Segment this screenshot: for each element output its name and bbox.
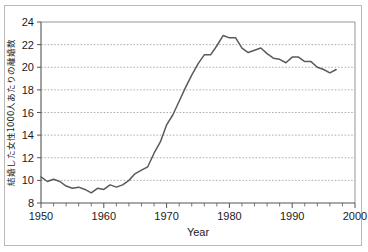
- y-tick-label: 20: [22, 61, 34, 73]
- x-tick-label: 1990: [280, 210, 304, 222]
- x-tick-label: 1980: [217, 210, 241, 222]
- x-axis-title: Year: [187, 226, 210, 238]
- y-tick-label: 12: [22, 152, 34, 164]
- chart-figure: 8101214161820222419501960197019801990200…: [0, 0, 368, 252]
- y-axis-title: 結婚した女性1000人あたりの離婚数: [6, 39, 16, 187]
- x-tick-label: 1960: [92, 210, 116, 222]
- x-tick-label: 2000: [343, 210, 367, 222]
- y-tick-label: 8: [28, 197, 34, 209]
- data-series-line: [41, 36, 336, 193]
- y-tick-label: 10: [22, 174, 34, 186]
- y-tick-label: 24: [22, 16, 34, 28]
- plot-area-wrapper: 8101214161820222419501960197019801990200…: [0, 0, 368, 252]
- y-tick-label: 16: [22, 107, 34, 119]
- y-tick-label: 22: [22, 39, 34, 51]
- x-tick-label: 1970: [154, 210, 178, 222]
- line-chart: 8101214161820222419501960197019801990200…: [0, 0, 368, 252]
- y-tick-label: 18: [22, 84, 34, 96]
- x-tick-label: 1950: [29, 210, 53, 222]
- y-tick-label: 14: [22, 129, 34, 141]
